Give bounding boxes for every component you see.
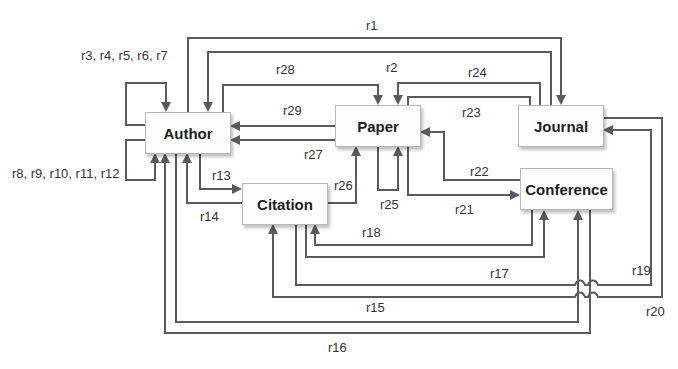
node-paper: Paper — [335, 105, 421, 147]
label-r19: r19 — [632, 263, 651, 278]
label-r24: r24 — [468, 65, 487, 80]
label-r25: r25 — [380, 197, 399, 212]
edge-r26 — [328, 148, 356, 203]
node-citation: Citation — [242, 183, 328, 225]
node-conference: Conference — [520, 168, 613, 210]
node-journal: Journal — [518, 105, 604, 147]
edge-r2 — [208, 52, 551, 110]
label-r26: r26 — [334, 178, 353, 193]
edge-r24 — [398, 83, 540, 105]
edge-r1 — [188, 38, 561, 112]
edge-r25 — [378, 146, 398, 190]
edge-r23 — [408, 97, 530, 105]
label-r14: r14 — [200, 209, 219, 224]
label-r28: r28 — [276, 62, 295, 77]
label-r21: r21 — [455, 202, 474, 217]
label-r3-r7: r3, r4, r5, r6, r7 — [81, 48, 168, 63]
label-r1: r1 — [366, 18, 378, 33]
label-r23: r23 — [462, 105, 481, 120]
label-r13: r13 — [212, 168, 231, 183]
label-r18: r18 — [362, 225, 381, 240]
label-r8-r12: r8, r9, r10, r11, r12 — [12, 166, 119, 181]
label-r16: r16 — [328, 340, 347, 355]
edge-r21 — [408, 146, 518, 195]
label-r2: r2 — [386, 60, 398, 75]
edge-r18 — [315, 210, 532, 245]
node-author: Author — [145, 112, 231, 154]
edge-r17 — [306, 212, 544, 257]
label-r29: r29 — [283, 103, 302, 118]
label-r17: r17 — [490, 266, 509, 281]
label-r22: r22 — [470, 164, 489, 179]
label-r27: r27 — [304, 147, 323, 162]
label-r20: r20 — [646, 304, 665, 319]
label-r15: r15 — [366, 300, 385, 315]
